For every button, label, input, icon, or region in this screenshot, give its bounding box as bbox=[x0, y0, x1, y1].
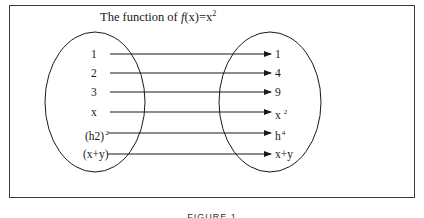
codomain-item-exponent: 4 bbox=[282, 129, 286, 137]
domain-item: 1 bbox=[91, 48, 97, 60]
domain-item: x bbox=[91, 106, 97, 118]
codomain-item-text: 4 bbox=[275, 67, 281, 79]
codomain-item: 9 bbox=[275, 86, 281, 98]
figure-caption: FIGURE 1 bbox=[0, 212, 424, 218]
domain-item-exponent: 2 bbox=[105, 129, 109, 137]
codomain-item-text: h bbox=[275, 130, 281, 142]
domain-item: 3 bbox=[91, 86, 97, 98]
codomain-ellipse bbox=[219, 32, 321, 172]
domain-item-text: x bbox=[91, 106, 97, 118]
codomain-item-text: 1 bbox=[275, 48, 281, 60]
domain-item-text: 3 bbox=[91, 86, 97, 98]
codomain-item: h4 bbox=[275, 127, 285, 142]
codomain-item-exponent: 2 bbox=[284, 108, 288, 116]
codomain-item-text: x bbox=[275, 109, 281, 121]
domain-item-text: 2 bbox=[91, 67, 97, 79]
domain-item-text: (x+y) bbox=[83, 148, 109, 160]
domain-item: (h2)2 bbox=[85, 127, 109, 142]
domain-item-text: (h2) bbox=[85, 130, 104, 142]
codomain-item-text: x+y bbox=[275, 148, 293, 160]
codomain-item-text: 9 bbox=[275, 86, 281, 98]
mapping-diagram bbox=[0, 0, 424, 218]
mapping-arrows bbox=[108, 54, 271, 154]
domain-item: 2 bbox=[91, 67, 97, 79]
codomain-item: 1 bbox=[275, 48, 281, 60]
codomain-item: x2 bbox=[275, 106, 287, 121]
domain-item: (x+y) bbox=[83, 148, 109, 160]
codomain-item: x+y bbox=[275, 148, 293, 160]
domain-item-text: 1 bbox=[91, 48, 97, 60]
codomain-item: 4 bbox=[275, 67, 281, 79]
